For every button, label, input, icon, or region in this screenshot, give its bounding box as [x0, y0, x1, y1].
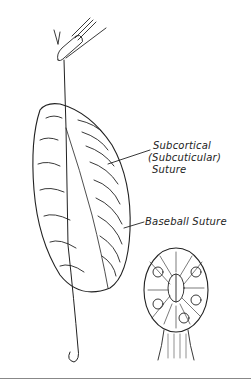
subcortical-label-line2: (Subcuticular): [148, 152, 221, 163]
specimen-with-suture: [33, 104, 130, 292]
baseball-leader-line: [124, 222, 144, 228]
subcortical-leader-line: [108, 150, 150, 164]
subcortical-label-line1: Subcortical: [153, 140, 211, 151]
caption-divider: [0, 378, 251, 379]
suture-illustration: [0, 0, 251, 390]
baseball-suture-label: Baseball Suture: [145, 216, 227, 227]
subcortical-label-line3: Suture: [152, 164, 186, 175]
cross-section: [144, 248, 208, 360]
needle-holder-icon: [54, 18, 106, 61]
suture-thread: [64, 60, 79, 362]
